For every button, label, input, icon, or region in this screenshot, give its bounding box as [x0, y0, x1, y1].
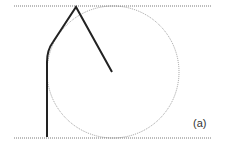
bent-path-line [47, 7, 112, 137]
dotted-circle [47, 6, 179, 138]
diagram-canvas: (a) [0, 0, 228, 148]
figure-label: (a) [193, 117, 206, 129]
